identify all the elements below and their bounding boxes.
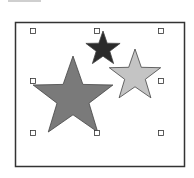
- selection-handle[interactable]: [31, 131, 36, 136]
- drawing-canvas[interactable]: [0, 0, 194, 178]
- selection-handle[interactable]: [159, 29, 164, 34]
- selection-handle[interactable]: [31, 29, 36, 34]
- selection-handle[interactable]: [95, 29, 100, 34]
- selection-handle[interactable]: [95, 131, 100, 136]
- selection-handle[interactable]: [159, 79, 164, 84]
- selection-handle[interactable]: [159, 131, 164, 136]
- selection-handle[interactable]: [31, 79, 36, 84]
